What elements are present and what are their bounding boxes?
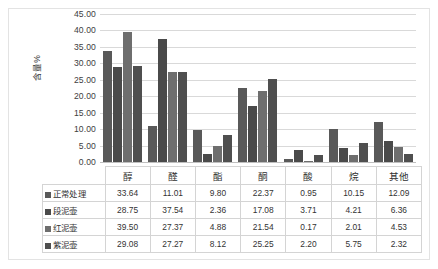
table-cell-value: 2.32 (376, 236, 421, 253)
legend-entry: 正常处理 (43, 185, 106, 202)
table-row: 紫泥壶29.0827.278.1225.252.205.752.32 (43, 236, 422, 253)
table-cell-value: 17.08 (241, 202, 286, 219)
table-cell-value: 25.25 (241, 236, 286, 253)
bar-group (145, 14, 190, 162)
bar-group (100, 14, 145, 162)
table-column-header: 其他 (376, 167, 421, 185)
bar (359, 143, 368, 162)
bar (123, 32, 132, 162)
series-name: 红泥壶 (53, 221, 78, 233)
y-tick-label: 35.00 (74, 42, 96, 52)
x-axis-line (100, 162, 416, 163)
y-axis-title: 含量% (30, 36, 42, 100)
bar-group (326, 14, 371, 162)
table-cell-value: 2.20 (286, 236, 331, 253)
table-column-header: 醛 (150, 167, 195, 185)
chart-container: 含量% 45.0040.0035.0030.0025.0020.0015.001… (0, 0, 438, 269)
table-row: 正常处理33.6411.019.8022.370.9510.1512.09 (43, 185, 422, 202)
table-column-header: 酸 (286, 167, 331, 185)
bar (178, 72, 187, 162)
bar-group (281, 14, 326, 162)
bar (268, 79, 277, 162)
table-cell-value: 37.54 (150, 202, 195, 219)
bar (258, 91, 267, 162)
bar-group (235, 14, 280, 162)
bar (284, 159, 293, 162)
bar (404, 154, 413, 162)
y-tick-label: 30.00 (74, 58, 96, 68)
bar (304, 161, 313, 162)
legend-entry: 段泥壶 (43, 202, 106, 219)
data-table: 醇醛酯酮酸烷其他正常处理33.6411.019.8022.370.9510.15… (42, 166, 422, 253)
series-name: 紫泥壶 (53, 238, 78, 250)
table-row: 段泥壶28.7537.542.3617.083.714.216.36 (43, 202, 422, 219)
y-tick-label: 5.00 (79, 141, 96, 151)
legend-entry: 红泥壶 (43, 219, 106, 236)
y-tick-label: 25.00 (74, 75, 96, 85)
table-cell-value: 8.12 (195, 236, 240, 253)
table-cell-value: 9.80 (195, 185, 240, 202)
legend-entry: 紫泥壶 (43, 236, 106, 253)
bar-group (371, 14, 416, 162)
table-column-header: 酯 (195, 167, 240, 185)
bar (203, 154, 212, 162)
bar (148, 126, 157, 162)
bar (314, 155, 323, 162)
plot-area-wrapper: 含量% 45.0040.0035.0030.0025.0020.0015.001… (18, 14, 422, 174)
y-tick-label: 15.00 (74, 108, 96, 118)
bar (349, 155, 358, 162)
legend-swatch-icon (45, 226, 51, 232)
table-cell-value: 33.64 (105, 185, 150, 202)
table-cell-value: 10.15 (331, 185, 376, 202)
bar (168, 72, 177, 162)
table-cell-value: 27.37 (150, 219, 195, 236)
legend-swatch-icon (45, 243, 51, 249)
table-cell-value: 4.88 (195, 219, 240, 236)
table-row: 红泥壶39.5027.374.8821.540.172.014.53 (43, 219, 422, 236)
bar (223, 135, 232, 162)
table-cell-value: 4.53 (376, 219, 421, 236)
bar (158, 39, 167, 162)
table-cell-value: 2.36 (195, 202, 240, 219)
bar (193, 130, 202, 162)
legend-swatch-icon (45, 192, 51, 198)
y-tick-label: 20.00 (74, 91, 96, 101)
bar (329, 129, 338, 162)
y-tick-label: 40.00 (74, 25, 96, 35)
table-column-header: 酮 (241, 167, 286, 185)
table-cell-value: 3.71 (286, 202, 331, 219)
table-cell-value: 5.75 (331, 236, 376, 253)
table-cell-value: 4.21 (331, 202, 376, 219)
y-axis-tick-labels: 45.0040.0035.0030.0025.0020.0015.0010.00… (54, 14, 98, 162)
legend-swatch-icon (45, 209, 51, 215)
table-cell-value: 29.08 (105, 236, 150, 253)
table-cell-value: 28.75 (105, 202, 150, 219)
series-name: 正常处理 (53, 187, 86, 199)
bar (113, 67, 122, 162)
bar (384, 141, 393, 162)
bar (213, 146, 222, 162)
table-cell-value: 22.37 (241, 185, 286, 202)
table-header-row: 醇醛酯酮酸烷其他 (43, 167, 422, 185)
y-tick-label: 10.00 (74, 124, 96, 134)
table-cell-value: 0.17 (286, 219, 331, 236)
bar (248, 106, 257, 162)
table-corner-cell (43, 167, 106, 185)
table-cell-value: 39.50 (105, 219, 150, 236)
bar-group (190, 14, 235, 162)
bar (238, 88, 247, 162)
table-column-header: 烷 (331, 167, 376, 185)
bar (339, 148, 348, 162)
bar (103, 51, 112, 162)
table-cell-value: 12.09 (376, 185, 421, 202)
table-cell-value: 27.27 (150, 236, 195, 253)
bars-layer (100, 14, 416, 162)
table-cell-value: 21.54 (241, 219, 286, 236)
bar (394, 147, 403, 162)
series-name: 段泥壶 (53, 204, 78, 216)
bar (374, 122, 383, 162)
table-cell-value: 6.36 (376, 202, 421, 219)
table-cell-value: 0.95 (286, 185, 331, 202)
plot-area (100, 14, 416, 162)
y-tick-label: 45.00 (74, 9, 96, 19)
